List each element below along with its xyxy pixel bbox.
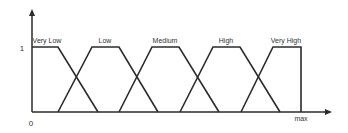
curve-medium bbox=[119, 47, 219, 112]
axes bbox=[29, 9, 332, 115]
label-very-low: Very Low bbox=[33, 37, 63, 45]
curve-low bbox=[58, 47, 158, 112]
x-max-label: max bbox=[294, 115, 308, 122]
label-high: High bbox=[219, 37, 234, 45]
label-low: Low bbox=[99, 37, 113, 44]
membership-function-chart: Very Low Low Medium High Very High 1 0 m… bbox=[0, 0, 348, 133]
label-very-high: Very High bbox=[271, 37, 301, 45]
origin-label: 0 bbox=[29, 119, 34, 128]
y-tick-1: 1 bbox=[20, 44, 25, 53]
membership-curves bbox=[32, 47, 301, 112]
curve-very-high bbox=[241, 47, 301, 112]
x-axis-arrow-icon bbox=[325, 109, 332, 115]
label-medium: Medium bbox=[153, 37, 178, 44]
y-axis-arrow-icon bbox=[29, 9, 35, 16]
curve-very-low bbox=[32, 47, 98, 112]
set-labels: Very Low Low Medium High Very High bbox=[33, 37, 302, 45]
curve-high bbox=[180, 47, 280, 112]
